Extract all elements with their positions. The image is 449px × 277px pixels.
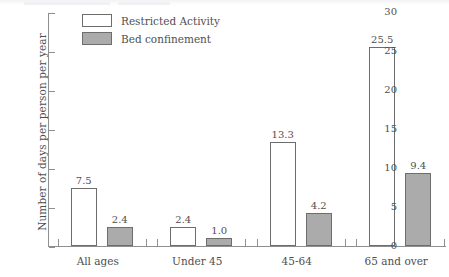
y-axis-tick (49, 247, 55, 248)
legend-item: Restricted Activity (82, 13, 220, 28)
y-axis-tick-label: 5 (357, 201, 397, 212)
bar-bed-confinement (405, 173, 431, 246)
bar-value-label: 4.2 (294, 200, 344, 211)
y-axis-tick-label: 20 (357, 84, 397, 95)
y-axis-tick (49, 208, 55, 209)
y-axis-tick-label: 0 (357, 240, 397, 251)
legend: Restricted Activity Bed confinement (82, 13, 220, 49)
bar-restricted-activity (170, 227, 196, 246)
y-axis-tick-label: 15 (357, 123, 397, 134)
bar-value-label: 25.5 (357, 34, 407, 45)
y-axis-tick (49, 91, 55, 92)
bar-bed-confinement (206, 238, 232, 246)
bar-value-label: 2.4 (95, 214, 145, 225)
bar-value-label: 7.5 (59, 175, 109, 186)
legend-swatch-bed-confinement (82, 32, 112, 45)
y-axis-tick-label: 30 (357, 6, 397, 17)
bar-bed-confinement (107, 227, 133, 246)
y-axis-tick-label: 10 (357, 162, 397, 173)
legend-swatch-restricted-activity (82, 14, 112, 27)
legend-label: Restricted Activity (121, 15, 220, 27)
bar-bed-confinement (306, 213, 332, 246)
legend-label: Bed confinement (121, 33, 211, 45)
y-axis-label: Number of days per person per year (36, 17, 48, 247)
x-axis-tick (58, 239, 59, 246)
y-axis-tick (49, 169, 55, 170)
bar-value-label: 2.4 (158, 214, 208, 225)
bar-restricted-activity (270, 142, 296, 246)
x-axis-tick (245, 239, 246, 246)
y-axis-tick-label: 25 (357, 45, 397, 56)
bar-value-label: 9.4 (393, 160, 443, 171)
y-axis-tick (49, 13, 55, 14)
scan-artifact-smudge (24, 2, 110, 5)
scan-artifact-smudge (118, 2, 170, 5)
bar-value-label: 1.0 (194, 225, 244, 236)
x-axis-tick (157, 239, 158, 246)
y-axis-tick (49, 52, 55, 53)
x-axis-tick (146, 239, 147, 246)
x-axis-category-label: 65 and over (337, 255, 449, 267)
y-axis-tick (49, 130, 55, 131)
bar-restricted-activity (71, 188, 97, 247)
legend-item: Bed confinement (82, 31, 220, 46)
x-axis-tick (257, 239, 258, 246)
bar-value-label: 13.3 (258, 129, 308, 140)
x-axis-tick (444, 239, 445, 246)
bar-restricted-activity (369, 47, 395, 246)
bar-chart: Number of days per person per year Restr… (0, 0, 449, 277)
x-axis-tick (345, 239, 346, 246)
